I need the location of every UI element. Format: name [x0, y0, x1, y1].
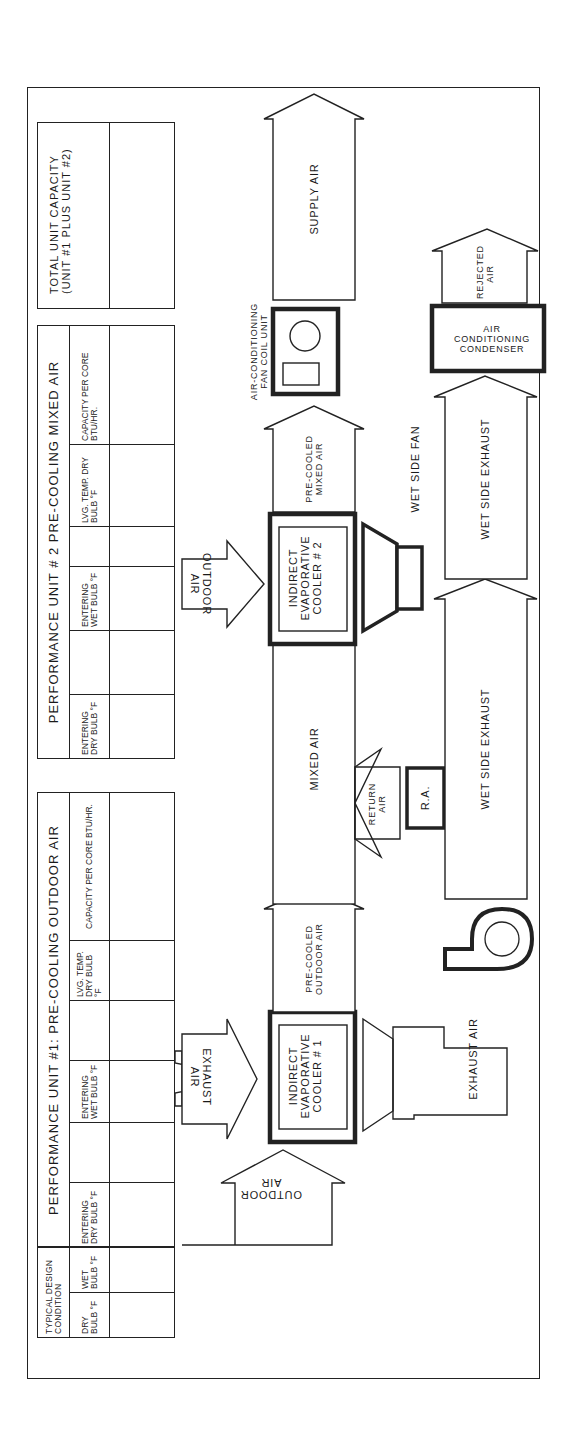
fan-coil-fan [290, 321, 320, 351]
exhaust-air-out-arrow [393, 1027, 507, 1119]
cooler-2-hood [363, 524, 397, 631]
wet-side-fan-label: Wet Side Fan [409, 414, 421, 524]
wet-side-fan-1-hub [485, 922, 519, 956]
return-air-label: Return Air [367, 774, 387, 834]
supply-air-label: Supply Air [308, 139, 320, 259]
exhaust-air-in-label: Exhaust Air [189, 1037, 213, 1117]
wet-side-exhaust-1-label: Wet Side Exhaust [479, 659, 491, 839]
ra-box-label: R.A. [419, 770, 431, 826]
cooler-1-label: Indirect Evaporative Cooler # 1 [287, 1028, 323, 1124]
mixed-air-label: Mixed Air [308, 699, 320, 819]
wet-side-exhaust-2-label: Wet Side Exhaust [479, 399, 491, 559]
fan-coil-unit-label: Air-Conditioning Fan Coil Unit [249, 294, 269, 409]
outdoor-air-1-label: Outdoor Air [236, 1177, 306, 1201]
cooler-2-label: Indirect Evaporative Cooler # 2 [287, 530, 323, 626]
rejected-air-label: Rejected Air [475, 249, 495, 299]
exhaust-air-out-label: Exhaust Air [467, 1009, 479, 1109]
outdoor-air-2-label: Outdoor Air [189, 544, 213, 624]
fan-coil-filter [283, 363, 319, 385]
cooler-1-hood [363, 1019, 393, 1131]
condenser-label: Air Conditioning Condenser [452, 324, 532, 354]
cooler-2-fan-box [397, 547, 422, 609]
precooled-mixed-air-label: Pre-Cooled Mixed Air [304, 429, 324, 509]
precooled-outdoor-air-label: Pre-Cooled Outdoor Air [304, 914, 324, 1004]
diagram-canvas: Typical Design Condition Dry Bulb °F Wet… [27, 87, 540, 1379]
